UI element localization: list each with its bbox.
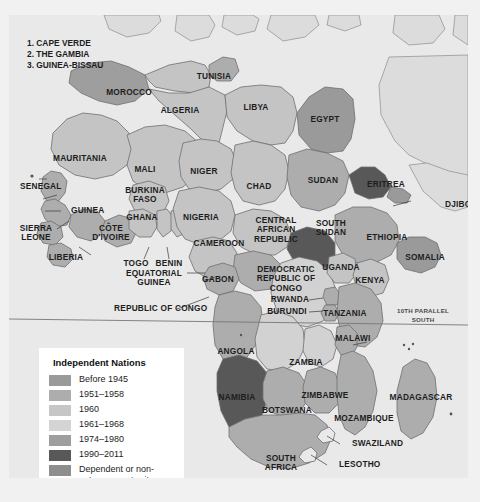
legend-item-label: Before 1945 [79,374,128,385]
legend-item-label: 1990–2011 [79,449,123,460]
legend-color-swatch [49,450,71,461]
legend-item: Before 1945 [49,374,174,386]
legend-color-swatch [49,405,71,416]
island-index-list: 1. CAPE VERDE 2. THE GAMBIA 3. GUINEA-BI… [27,38,103,72]
legend-color-swatch [49,435,71,446]
legend-color-swatch [49,465,71,476]
legend-color-swatch [49,420,71,431]
legend-item-label: 1974–1980 [79,434,124,445]
legend-item-label: Dependent or non- autonomous territory [79,464,174,478]
africa-independence-map: 1. CAPE VERDE 2. THE GAMBIA 3. GUINEA-BI… [9,15,468,478]
legend-color-swatch [49,390,71,401]
screenshot-root: 1. CAPE VERDE 2. THE GAMBIA 3. GUINEA-BI… [0,0,480,502]
legend-item: Dependent or non- autonomous territory [49,464,174,478]
legend-item: 1960 [49,404,174,416]
legend-item: 1990–2011 [49,449,174,461]
map-legend: Independent Nations Before 19451951–1958… [39,348,184,478]
legend-item-label: 1961–1968 [79,419,124,430]
legend-item-label: 1960 [79,404,99,415]
legend-rows: Before 19451951–195819601961–19681974–19… [49,374,174,478]
legend-item: 1961–1968 [49,419,174,431]
legend-color-swatch [49,375,71,386]
legend-item-label: 1951–1958 [79,389,124,400]
legend-item: 1951–1958 [49,389,174,401]
legend-item: 1974–1980 [49,434,174,446]
legend-title: Independent Nations [53,357,174,368]
